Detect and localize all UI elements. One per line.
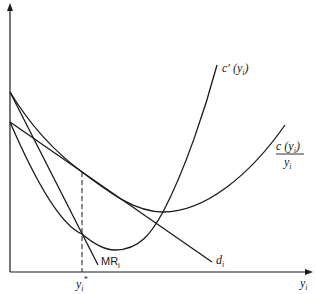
equilibrium-quantity-label: yi*	[75, 275, 88, 293]
average-cost-label: c (yi) yi	[276, 139, 304, 171]
y-axis-arrow-icon	[7, 3, 13, 11]
average-cost-curve	[10, 92, 285, 212]
marginal-revenue-curve	[10, 92, 98, 265]
demand-label: di	[216, 253, 224, 269]
economics-diagram: c′ (yi) c (yi) yi di MRi yi* yi	[0, 0, 316, 294]
x-axis-label: yi	[299, 276, 308, 292]
svg-text:yi: yi	[283, 155, 292, 171]
marginal-cost-curve	[10, 65, 217, 250]
x-axis	[10, 269, 313, 275]
marginal-revenue-label: MRi	[101, 255, 120, 270]
x-axis-arrow-icon	[305, 269, 313, 275]
marginal-cost-label: c′ (yi)	[222, 61, 249, 77]
y-axis	[7, 3, 13, 272]
svg-text:c (yi): c (yi)	[276, 139, 300, 155]
